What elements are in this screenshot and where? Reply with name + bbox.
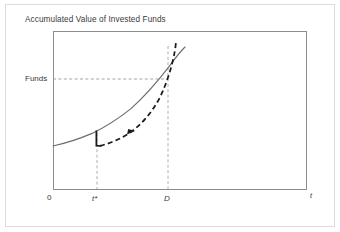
y-axis-label-funds: Funds: [25, 74, 47, 83]
post-withdrawal-curve: [100, 42, 176, 146]
chart-page: Accumulated Value of Invested Funds Fund…: [0, 0, 340, 232]
baseline-accumulation-curve: [53, 47, 185, 146]
x-axis-label-tstar: t*: [92, 194, 97, 203]
x-axis-label-time: t: [310, 191, 312, 200]
withdrawal-drop-segment: [96, 130, 101, 145]
x-axis-label-d: D: [164, 194, 170, 203]
x-axis-label-origin: 0: [47, 193, 51, 202]
